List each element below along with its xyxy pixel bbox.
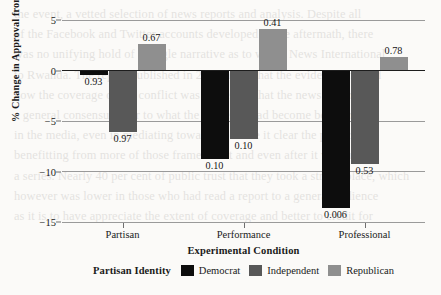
bar-value-label: 0.67 — [143, 32, 161, 43]
y-axis-label: % Change in Approval from Control — [10, 0, 21, 122]
legend: Partisan Identity Democrat Independent R… — [62, 265, 425, 276]
y-tick-label: 0 — [51, 65, 56, 76]
y-tick-label: −5 — [45, 116, 56, 127]
x-tick-label-professional: Professional — [339, 229, 391, 240]
legend-item-republican: Republican — [328, 265, 394, 276]
y-tick-mark — [56, 70, 61, 71]
bar-partisan-democrat: 0.93 — [80, 71, 108, 76]
bar-value-label: 0.10 — [235, 140, 253, 151]
y-tick-label: −15 — [40, 217, 56, 228]
bar-value-label: 0.006 — [324, 209, 347, 220]
legend-label-independent: Independent — [267, 265, 319, 276]
x-tick-label-partisan: Partisan — [106, 229, 140, 240]
legend-swatch-democrat — [181, 265, 194, 276]
x-tick-mark — [365, 223, 366, 228]
plot-area: Experimental Condition Partisan Identity… — [62, 20, 425, 222]
bar-value-label: 0.97 — [114, 133, 132, 144]
bar-performance-democrat: 0.10 — [201, 71, 229, 160]
x-tick-mark — [123, 223, 124, 228]
bar-value-label: 0.10 — [206, 160, 224, 171]
y-tick-mark — [56, 20, 61, 21]
legend-item-democrat: Democrat — [181, 265, 240, 276]
legend-label-republican: Republican — [346, 265, 394, 276]
bar-professional-democrat: 0.006 — [322, 71, 350, 208]
bar-value-label: 0.53 — [356, 165, 374, 176]
bar-value-label: 0.93 — [85, 76, 103, 87]
bar-partisan-republican: 0.67 — [138, 44, 166, 70]
y-tick-label: −10 — [40, 166, 56, 177]
y-tick-label: 5 — [51, 15, 56, 26]
legend-swatch-republican — [328, 265, 341, 276]
legend-title: Partisan Identity — [93, 265, 171, 276]
bar-value-label: 0.78 — [385, 45, 403, 56]
bar-performance-republican: 0.41 — [259, 29, 287, 70]
bar-performance-independent: 0.10 — [230, 71, 258, 140]
x-tick-label-performance: Performance — [217, 229, 271, 240]
gridline — [62, 20, 425, 21]
legend-item-independent: Independent — [249, 265, 319, 276]
y-tick-mark — [56, 171, 61, 172]
bar-partisan-independent: 0.97 — [109, 71, 137, 133]
x-tick-mark — [244, 223, 245, 228]
legend-swatch-independent — [249, 265, 262, 276]
x-axis-label: Experimental Condition — [62, 245, 425, 256]
y-tick-mark — [56, 121, 61, 122]
bar-professional-independent: 0.53 — [351, 71, 379, 165]
bar-value-label: 0.41 — [264, 17, 282, 28]
figure-grouped-bar-chart: % Change in Approval from Control Experi… — [0, 0, 441, 295]
y-tick-mark — [56, 222, 61, 223]
legend-label-democrat: Democrat — [199, 265, 240, 276]
bar-professional-republican: 0.78 — [380, 57, 408, 70]
